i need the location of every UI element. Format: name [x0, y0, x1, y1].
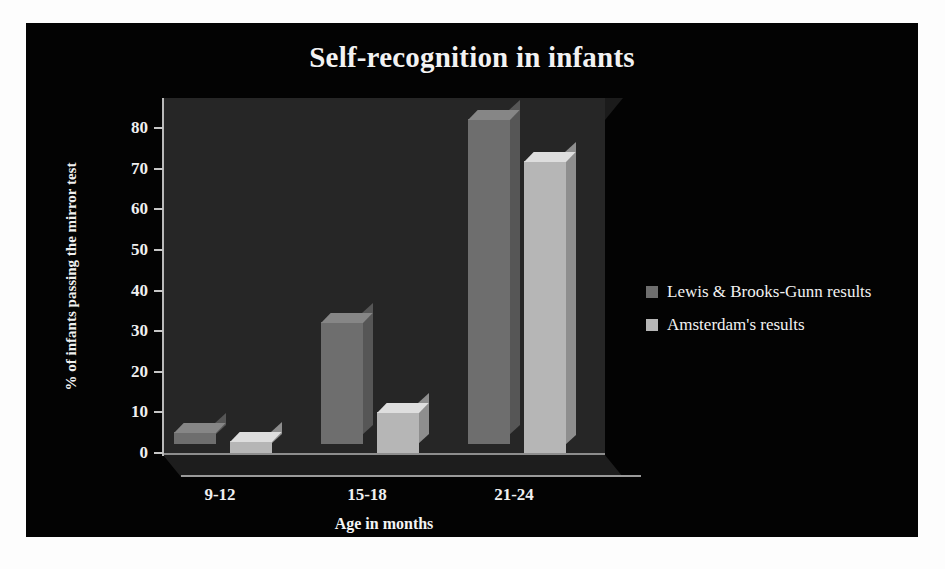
bar-top-face: [524, 152, 576, 162]
legend-swatch-icon: [646, 319, 658, 331]
plot-floor-bottom-edge: [181, 475, 641, 477]
slide-page: Self-recognition in infants 010203040506…: [0, 0, 945, 569]
bar-front-face: [524, 161, 566, 454]
y-axis-line: [162, 98, 164, 456]
y-axis-tick: [154, 330, 163, 332]
y-axis-tick-label: 40: [104, 282, 148, 299]
y-axis-tick-label: 50: [104, 241, 148, 258]
x-axis-category-label: 9-12: [150, 485, 290, 505]
x-axis-title: Age in months: [163, 515, 605, 533]
y-axis-title: % of infants passing the mirror test: [63, 112, 80, 442]
y-axis-tick-label: 80: [104, 119, 148, 136]
bar: [377, 412, 419, 453]
plot-side-wall: [605, 98, 623, 120]
bar-front-face: [468, 119, 510, 444]
bar-side-face: [509, 100, 520, 435]
bar: [230, 441, 272, 453]
x-axis-category-label: 15-18: [297, 485, 437, 505]
y-axis-tick-label: 70: [104, 160, 148, 177]
bar-side-face: [362, 303, 373, 435]
plot-floor: [163, 455, 623, 477]
legend-label: Amsterdam's results: [667, 315, 805, 335]
y-axis-tick-label: 10: [104, 403, 148, 420]
legend-item[interactable]: Amsterdam's results: [646, 314, 871, 336]
legend-item[interactable]: Lewis & Brooks-Gunn results: [646, 281, 871, 303]
presentation-slide: Self-recognition in infants 010203040506…: [26, 23, 918, 537]
chart-plot-area: 01020304050607080 % of infants passing t…: [26, 23, 918, 537]
y-axis-tick: [154, 208, 163, 210]
y-axis-tick-label: 60: [104, 200, 148, 217]
y-axis-tick: [154, 249, 163, 251]
y-axis-tick: [154, 127, 163, 129]
bar-front-face: [230, 441, 272, 453]
y-axis-tick: [154, 168, 163, 170]
bar: [174, 432, 216, 444]
plot-floor-front-edge: [163, 453, 605, 455]
y-axis-tick: [154, 371, 163, 373]
y-axis-tick: [154, 290, 163, 292]
bar: [321, 322, 363, 444]
chart-legend: Lewis & Brooks-Gunn resultsAmsterdam's r…: [646, 281, 871, 347]
bar-side-face: [565, 142, 576, 444]
x-axis-category-label: 21-24: [444, 485, 584, 505]
bar-front-face: [377, 412, 419, 453]
y-axis-tick-label: 20: [104, 363, 148, 380]
bar: [524, 161, 566, 454]
bar: [468, 119, 510, 444]
y-axis-tick-label: 30: [104, 322, 148, 339]
bar-front-face: [174, 432, 216, 444]
legend-swatch-icon: [646, 286, 658, 298]
y-axis-tick-label: 0: [104, 444, 148, 461]
bar-front-face: [321, 322, 363, 444]
legend-label: Lewis & Brooks-Gunn results: [667, 282, 871, 302]
y-axis-tick: [154, 411, 163, 413]
y-axis-tick: [154, 452, 163, 454]
